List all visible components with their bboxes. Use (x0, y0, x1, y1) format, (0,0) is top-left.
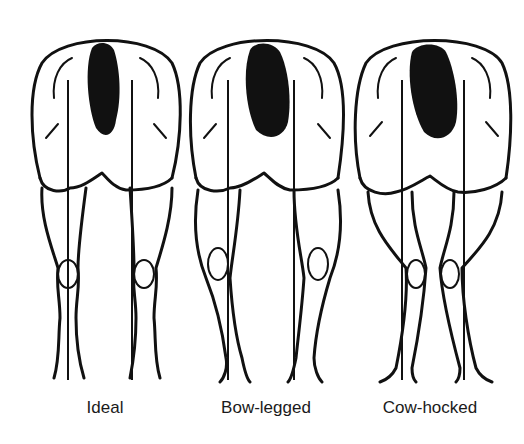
conformation-diagram: Ideal Bow-legged Cow-hocked (0, 0, 524, 444)
panel-ideal (22, 28, 192, 388)
cow-hocked-hindquarters-drawing (350, 28, 520, 388)
ideal-hindquarters-drawing (22, 28, 192, 388)
panel-bow-legged (184, 28, 354, 388)
label-bow-legged: Bow-legged (221, 398, 311, 418)
bow-legged-hindquarters-drawing (184, 28, 354, 388)
panel-cow-hocked (350, 28, 520, 388)
label-cow-hocked: Cow-hocked (383, 398, 478, 418)
label-ideal: Ideal (87, 398, 124, 418)
